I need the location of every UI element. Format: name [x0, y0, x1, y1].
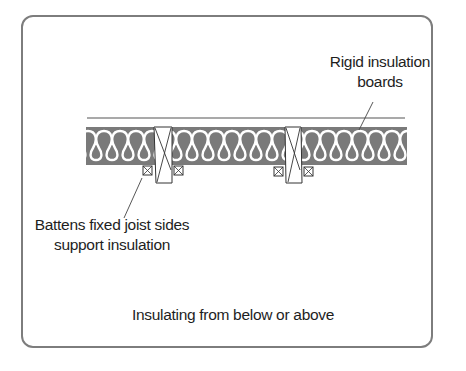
joist-1	[154, 127, 172, 183]
rigid-boards-label-line1: Rigid insulation	[328, 52, 432, 72]
diagram-caption: Insulating from below or above	[0, 306, 466, 324]
batten-1b	[174, 166, 183, 175]
batten-2b	[304, 167, 313, 176]
rigid-boards-leader	[359, 102, 373, 130]
insulation-band	[86, 127, 407, 165]
rigid-boards-label-line2: boards	[328, 72, 432, 92]
batten-1a	[143, 166, 152, 175]
battens-label-line2: support insulation	[30, 235, 194, 255]
battens-leader	[124, 178, 142, 218]
batten-2a	[274, 167, 283, 176]
battens-label-line1: Battens fixed joist sides	[30, 215, 194, 235]
joist-2	[285, 127, 302, 183]
